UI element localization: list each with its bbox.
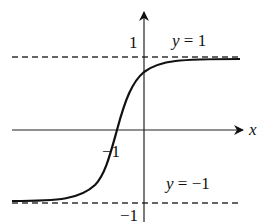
asymptote-bottom-eq: = −1 [174, 174, 210, 193]
sigmoid-diagram: x y = 1 y = −1 1 −1 −1 [0, 0, 261, 224]
x-axis-label: x [248, 120, 257, 139]
asymptote-bottom-label: y = −1 [164, 174, 210, 193]
tick-y-top: 1 [129, 33, 138, 52]
asymptote-top-label: y = 1 [170, 31, 206, 50]
tick-y-bottom: −1 [120, 206, 138, 224]
asymptote-top-eq: = 1 [180, 31, 207, 50]
tick-x-neg1: −1 [102, 142, 120, 161]
